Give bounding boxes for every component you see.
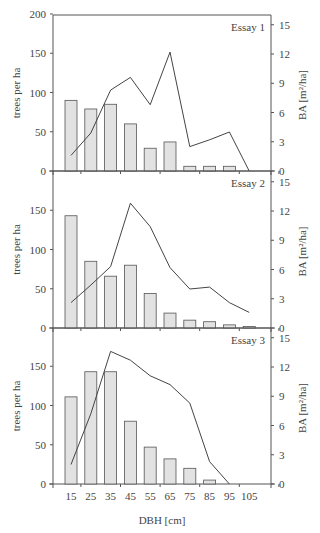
y2-tick-label: 6	[279, 107, 285, 119]
bar	[204, 322, 216, 328]
y2-tick-label: 9	[279, 234, 285, 246]
y-tick-label: 0	[41, 478, 47, 490]
x-tick-label: 25	[85, 490, 97, 502]
bar	[124, 265, 136, 328]
ba-line	[71, 203, 249, 312]
bar	[124, 421, 136, 484]
y-tick-label: 150	[30, 360, 47, 372]
bar	[184, 320, 196, 328]
y2-tick-label: 9	[279, 77, 285, 89]
bar	[204, 166, 216, 171]
panel-1: 05010015020003691215Essay 1trees per haB…	[10, 8, 308, 177]
bar	[65, 216, 77, 328]
bar	[164, 459, 176, 484]
y-tick-label: 50	[35, 439, 47, 451]
ba-line	[71, 52, 249, 171]
bar	[144, 148, 156, 171]
bar	[184, 468, 196, 484]
y2-tick-label: 15	[279, 176, 291, 188]
panel-title: Essay 3	[231, 334, 265, 346]
y-tick-label: 150	[30, 47, 47, 59]
y2-axis-label: BA [m²/ha]	[296, 383, 308, 433]
panel-title: Essay 1	[231, 21, 265, 33]
x-tick-label: 85	[204, 490, 216, 502]
bar	[105, 276, 117, 328]
y-tick-label: 50	[35, 126, 47, 138]
x-tick-label: 15	[66, 490, 78, 502]
bar	[65, 397, 77, 484]
y2-tick-label: 3	[279, 293, 285, 305]
y-tick-label: 100	[30, 400, 47, 412]
y-tick-label: 150	[30, 204, 47, 216]
bar	[124, 124, 136, 171]
bar	[85, 261, 97, 328]
x-tick-label: 45	[125, 490, 137, 502]
y2-tick-label: 0	[279, 478, 285, 490]
y2-tick-label: 3	[279, 136, 285, 148]
bar	[164, 142, 176, 171]
y2-tick-label: 15	[279, 19, 291, 31]
y-tick-label: 0	[41, 322, 47, 334]
y2-tick-label: 12	[279, 205, 290, 217]
y2-tick-label: 6	[279, 420, 285, 432]
x-tick-label: 95	[224, 490, 236, 502]
y-tick-label: 100	[30, 87, 47, 99]
panel-2: 05010015003691215Essay 2trees per haBA […	[10, 171, 308, 334]
y2-tick-label: 15	[279, 332, 291, 344]
chart-container: 05010015020003691215Essay 1trees per haB…	[0, 0, 320, 533]
y2-tick-label: 12	[279, 361, 290, 373]
bar	[144, 447, 156, 484]
y2-axis-label: BA [m²/ha]	[296, 70, 308, 120]
x-tick-label: 55	[145, 490, 157, 502]
bar	[204, 480, 216, 484]
bar	[164, 313, 176, 328]
y2-tick-label: 3	[279, 449, 285, 461]
x-tick-label: 65	[165, 490, 177, 502]
y-axis-label: trees per ha	[10, 68, 22, 119]
x-tick-label: 35	[105, 490, 117, 502]
bar	[223, 166, 235, 171]
x-tick-label: 105	[241, 490, 258, 502]
bar	[85, 109, 97, 171]
y-tick-label: 0	[41, 165, 47, 177]
y-axis-label: trees per ha	[10, 381, 22, 432]
y-tick-label: 200	[30, 8, 47, 20]
y-tick-label: 50	[35, 283, 47, 295]
bar	[105, 104, 117, 171]
y-tick-label: 100	[30, 244, 47, 256]
y2-tick-label: 12	[279, 48, 290, 60]
y-axis-label: trees per ha	[10, 224, 22, 275]
panel-title: Essay 2	[231, 177, 265, 189]
diameter-distribution-chart: 05010015020003691215Essay 1trees per haB…	[0, 0, 320, 533]
y2-tick-label: 9	[279, 390, 285, 402]
bar	[144, 293, 156, 328]
bar	[184, 166, 196, 171]
bar	[85, 372, 97, 484]
x-tick-label: 75	[184, 490, 196, 502]
x-axis-title: DBH [cm]	[139, 514, 186, 526]
y2-tick-label: 6	[279, 264, 285, 276]
bar	[105, 372, 117, 484]
y2-axis-label: BA [m²/ha]	[296, 226, 308, 276]
bar	[65, 100, 77, 171]
panel-3: 05010015003691215Essay 3trees per haBA […	[10, 328, 308, 490]
